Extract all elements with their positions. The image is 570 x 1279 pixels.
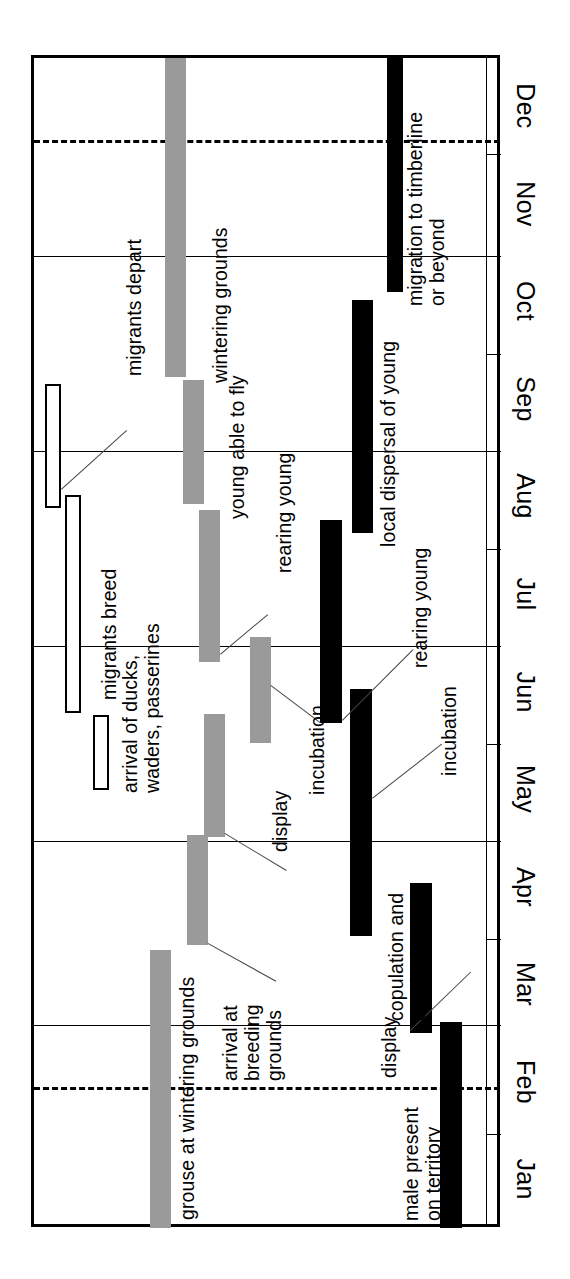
bar-wintering-grounds: [165, 58, 186, 377]
tick-jul: [487, 646, 501, 647]
label-grouse-at-wintering-grounds: grouse at wintering grounds: [176, 977, 198, 1220]
tick-dec: [487, 154, 501, 155]
month-label-aug: Aug: [504, 447, 548, 545]
label-incubation-black: incubation: [438, 686, 460, 776]
label-copulation-and-egg-laying: copulation and egg-laying: [385, 893, 429, 1021]
label-arrival-at-breeding-grounds: arrival at breeding grounds: [219, 1004, 285, 1081]
tick-feb: [487, 1134, 501, 1135]
tick-apr: [487, 939, 501, 940]
bar-migrants-depart: [45, 384, 61, 508]
label-local-dispersal-of-young: local dispersal of young: [377, 341, 399, 547]
month-label-jan: Jan: [504, 1130, 548, 1228]
month-tick-strip: [486, 58, 500, 1224]
month-label-jun: Jun: [504, 643, 548, 741]
label-display-black: display: [378, 1017, 400, 1078]
month-label-may: May: [504, 740, 548, 838]
month-label-dec: Dec: [504, 57, 548, 155]
tick-may: [487, 841, 501, 842]
tick-nov: [487, 256, 501, 257]
label-male-present-on-territory: male present on territory: [400, 1107, 444, 1221]
label-display-grey: display: [269, 791, 291, 852]
bar-local-dispersal-of-young: [352, 300, 373, 533]
bar-rearing-young-grey: [199, 510, 220, 662]
month-label-feb: Feb: [504, 1033, 548, 1131]
month-label-nov: Nov: [504, 155, 548, 253]
label-migrants-depart: migrants depart: [123, 239, 145, 376]
tick-aug: [487, 549, 501, 550]
month-label-jul: Jul: [504, 545, 548, 643]
bar-arrival-ducks-waders-passerines: [93, 715, 109, 790]
annual-cycle-chart: migrants depart migrants breed arrival o…: [31, 55, 500, 1227]
label-young-able-to-fly: young able to fly: [226, 375, 248, 519]
tick-jun: [487, 744, 501, 745]
label-rearing-young-black: rearing young: [409, 547, 431, 668]
month-label-apr: Apr: [504, 838, 548, 936]
leader-arrival-breeding: [208, 943, 277, 982]
bar-incubation-grey: [250, 637, 271, 743]
month-label-oct: Oct: [504, 252, 548, 350]
gridline-may-apr: [34, 841, 486, 842]
label-wintering-grounds: wintering grounds: [209, 227, 231, 383]
bar-migrants-breed: [65, 495, 81, 713]
tick-sep: [487, 451, 501, 452]
leader-incubation-black: [372, 744, 442, 799]
tick-mar: [487, 1025, 501, 1026]
label-migration-to-timberline: migration to timberline or beyond: [404, 112, 448, 306]
month-label-mar: Mar: [504, 935, 548, 1033]
bar-arrival-at-breeding-grounds: [187, 835, 208, 945]
leader-rearing-young-black: [342, 649, 413, 720]
tick-oct: [487, 354, 501, 355]
bar-rearing-young-black: [320, 520, 342, 723]
label-migrants-breed: migrants breed: [98, 569, 120, 700]
leader-migrants-depart: [61, 430, 127, 490]
bar-young-able-to-fly: [183, 380, 204, 504]
bar-incubation-black: [350, 689, 372, 936]
label-incubation-grey: incubation: [306, 705, 328, 795]
label-arrival-ducks: arrival of ducks, waders, passerines: [119, 623, 163, 793]
dashed-marker-feb: [34, 1087, 500, 1090]
bar-display-grey: [204, 714, 225, 837]
bar-grouse-at-wintering-grounds: [150, 950, 171, 1228]
bar-migration-to-timberline: [387, 58, 403, 292]
month-label-sep: Sep: [504, 350, 548, 448]
label-rearing-young-grey: rearing young: [273, 452, 295, 573]
